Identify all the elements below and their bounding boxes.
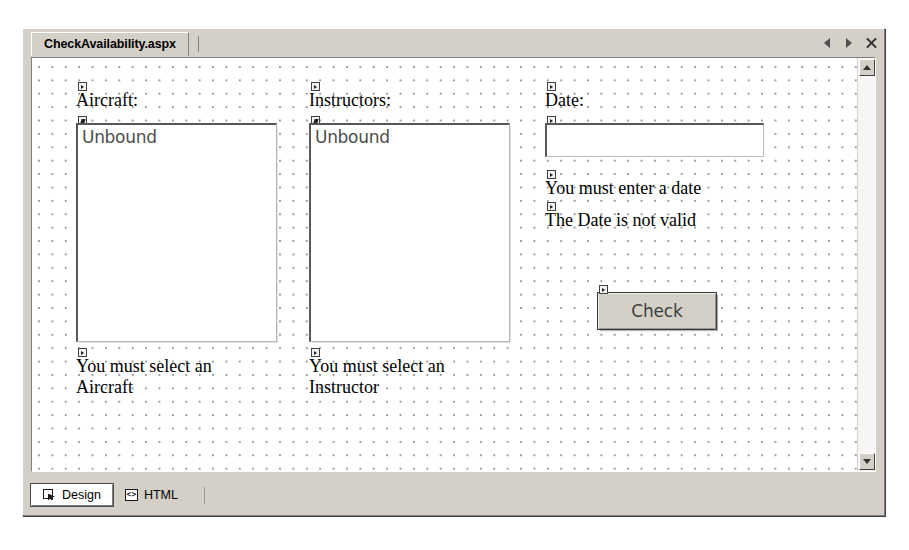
web-forms-design-surface[interactable]: Aircraft: Unbound You must select an Air… [32,58,857,471]
view-tab-separator [204,487,205,504]
label-instructors: Instructors: [309,90,391,111]
scroll-up-button[interactable] [859,59,875,76]
tab-design-view-label: Design [62,488,101,502]
html-view-icon: <> [125,489,138,501]
document-tab-checkavailability[interactable]: CheckAvailability.aspx [31,32,189,56]
validator-aircraft-required: You must select an Aircraft [76,356,271,398]
listbox-aircraft[interactable]: Unbound [76,123,277,342]
validator-date-required: You must enter a date [545,178,701,199]
label-date: Date: [545,90,584,111]
tab-strip-divider [198,36,199,52]
tab-next-button[interactable] [842,35,855,50]
listbox-aircraft-item[interactable]: Unbound [82,127,157,147]
document-tab-label: CheckAvailability.aspx [44,37,176,51]
tab-navigation-controls [820,35,877,50]
check-button-label: Check [631,301,682,321]
view-tab-bar: Design <> HTML [31,482,876,508]
triangle-right-icon [846,38,852,48]
validator-instructor-required: You must select an Instructor [309,356,504,398]
listbox-instructors-item[interactable]: Unbound [315,127,390,147]
textbox-date[interactable] [545,123,764,157]
designer-window: CheckAvailability.aspx Aircraft: [22,28,885,516]
scroll-down-arrow-icon [863,459,871,464]
listbox-instructors[interactable]: Unbound [309,123,510,342]
triangle-left-icon [824,38,830,48]
tab-html-view[interactable]: <> HTML [113,484,190,506]
close-icon [865,37,877,49]
tab-close-button[interactable] [864,35,877,50]
validator-date-invalid: The Date is not valid [545,210,696,231]
scrollbar-track[interactable] [859,76,875,453]
tab-prev-button[interactable] [820,35,833,50]
check-button[interactable]: Check [597,292,717,330]
label-aircraft: Aircraft: [76,90,138,111]
design-surface-frame: Aircraft: Unbound You must select an Air… [31,57,876,472]
design-vertical-scrollbar[interactable] [857,58,875,471]
scroll-up-arrow-icon [863,65,871,70]
tab-html-view-label: HTML [144,488,178,502]
screenshot-root: CheckAvailability.aspx Aircraft: [0,0,909,550]
scroll-down-button[interactable] [859,453,875,470]
control-glyph-check-button[interactable] [599,285,608,294]
tab-design-view[interactable]: Design [31,484,113,506]
design-view-icon [43,489,56,502]
document-tab-strip: CheckAvailability.aspx [23,29,884,57]
